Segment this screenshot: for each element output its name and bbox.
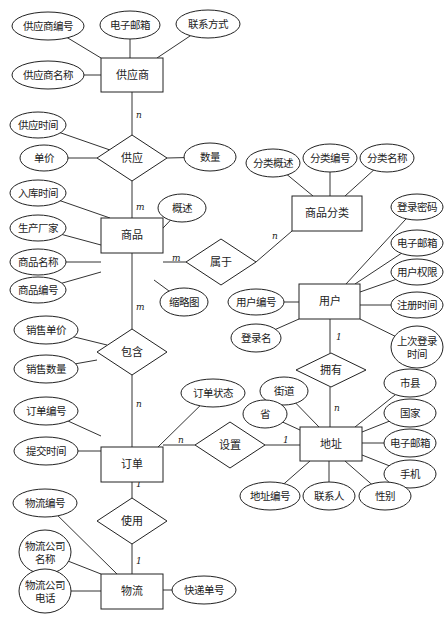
relationship-label: 供应 [121,151,143,165]
attribute-ellipse: 供应商编号 [12,12,84,40]
attribute-label: 电子邮箱 [110,19,150,31]
attribute-label: 联系人 [314,490,345,502]
attribute-ellipse: 缩略图 [160,288,208,316]
relationship-label: 使用 [121,515,143,528]
attribute-label: 供应商编号 [23,20,73,32]
attribute-label: 用户权限 [397,266,438,278]
attribute-label: 订单状态 [193,387,234,399]
er-diagram: nmmnmn1nn111 供应商编号电子邮箱联系方式供应商名称供应时间单价数量入… [0,0,447,621]
attribute-label: 登录名 [241,332,271,344]
attribute-label: 入库时间 [18,187,58,199]
attribute-ellipse: 提交时间 [14,437,78,465]
attribute-label: 数量 [200,151,221,163]
entity-category: 商品分类 [292,196,362,231]
relationship-label: 包含 [121,345,143,359]
attribute-label: 物流编号 [25,497,65,509]
attribute-ellipse: 入库时间 [10,180,66,206]
attribute-ellipse: 分类编号 [303,144,357,172]
attribute-label: 销售单价 [26,324,67,336]
entity-logistics: 物流 [101,574,163,609]
attribute-ellipse: 注册时间 [391,292,443,318]
attribute-label: 概述 [172,202,193,214]
entity-user: 用户 [299,284,360,319]
attribute-ellipse: 供应商名称 [12,61,84,89]
attribute-label: 街道 [274,385,295,397]
attribute-label: 分类编号 [310,152,350,164]
attribute-label: 电话 [35,592,56,604]
relationship-label: 拥有 [320,363,342,377]
attribute-label: 销售数量 [26,363,67,375]
attribute-ellipse: 销售单价 [14,316,78,344]
cardinality-label: 1 [136,556,142,566]
attribute-ellipse: 单价 [20,145,68,171]
cardinality-label: n [178,435,184,445]
relationship-own: 拥有 [296,353,366,387]
cardinality-label: n [272,231,278,241]
attribute-label: 供应商名称 [23,69,74,81]
relationship-label: 属于 [210,256,232,269]
attribute-label: 名称 [35,553,56,565]
attribute-label: 生产厂家 [18,222,59,234]
attribute-ellipse: 省 [243,400,287,428]
attribute-label: 国家 [400,407,421,419]
attribute-ellipse: 电子邮箱 [384,429,436,457]
attribute-ellipse: 电子邮箱 [391,230,443,256]
attribute-label: 市县 [400,377,420,389]
cardinality-label: m [136,202,145,212]
attribute-label: 电子邮箱 [397,237,437,249]
attribute-label: 分类名称 [367,152,408,164]
attribute-ellipse: 登录密码 [391,194,443,220]
relationship-belongs: 属于 [186,239,256,285]
attribute-ellipse: 快递单号 [172,576,236,604]
attribute-label: 注册时间 [397,299,437,311]
attribute-ellipse: 用户权限 [391,259,443,285]
attribute-label: 快递单号 [184,584,224,596]
relationship-label: 设置 [219,439,241,452]
attribute-label: 订单编号 [26,405,66,417]
entity-address: 地址 [300,427,362,461]
cardinality-label: 1 [283,435,289,445]
relationship-supply: 供应 [97,135,167,181]
attribute-ellipse: 登录名 [231,324,281,352]
attribute-ellipse: 销售数量 [14,355,78,383]
attribute-ellipse: 国家 [384,399,436,427]
attribute-label: 用户编号 [236,296,276,308]
attribute-ellipse: 订单状态 [181,379,245,407]
attribute-ellipse: 订单编号 [14,397,78,425]
attribute-ellipse: 商品编号 [10,277,66,303]
attribute-label: 缩略图 [169,296,199,308]
attribute-ellipse: 市县 [384,369,436,397]
entity-label: 物流 [121,584,143,598]
attribute-ellipse: 性别 [359,482,411,510]
attribute-ellipse: 供应时间 [10,112,66,138]
attribute-ellipse: 数量 [184,143,236,171]
relationship-setup: 设置 [195,422,265,468]
entity-label: 用户 [319,294,341,308]
attribute-label: 物流公司 [25,540,65,552]
attribute-label: 登录密码 [397,201,437,213]
attributes: 供应商编号电子邮箱联系方式供应商名称供应时间单价数量入库时间概述生产厂家商品名称… [10,10,443,613]
relationship-use: 使用 [97,498,167,544]
cardinality-label: n [136,110,142,120]
attribute-label: 提交时间 [26,445,66,457]
attribute-label: 联系方式 [188,18,229,30]
attribute-ellipse: 上次登录时间 [391,326,443,368]
cardinality-label: n [136,399,142,409]
attribute-label: 单价 [34,152,55,164]
cardinality-label: 1 [336,332,342,342]
entity-label: 供应商 [116,68,149,82]
entity-label: 地址 [320,437,342,451]
attribute-label: 性别 [375,490,395,502]
attribute-label: 分类概述 [253,157,294,169]
attribute-label: 时间 [407,348,427,360]
relationship-contain: 包含 [97,329,167,375]
attribute-label: 省 [260,408,270,420]
cardinality-label: n [334,403,340,413]
attribute-label: 物流公司 [25,579,65,591]
attribute-ellipse: 生产厂家 [10,215,66,241]
attribute-ellipse: 用户编号 [228,289,284,315]
attribute-ellipse: 联系方式 [176,10,240,38]
attribute-ellipse: 联系人 [303,482,355,510]
entity-order: 订单 [101,447,163,482]
entity-label: 订单 [121,458,143,471]
